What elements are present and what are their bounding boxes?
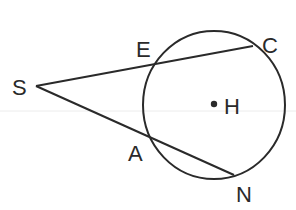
label-c: C: [262, 33, 278, 58]
secant-diagram: S E C H A N: [0, 0, 296, 210]
label-n: N: [236, 182, 252, 207]
label-h: H: [224, 94, 240, 119]
center-point-h: [211, 101, 217, 107]
label-s: S: [12, 75, 27, 100]
label-e: E: [136, 37, 151, 62]
label-a: A: [128, 141, 143, 166]
